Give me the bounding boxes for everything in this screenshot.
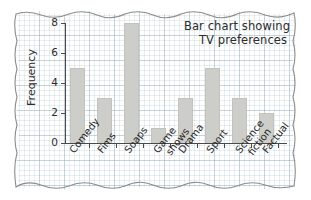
x-tick-4 [197, 143, 198, 148]
y-tick-4: 4 [61, 83, 66, 84]
y-tick-2: 2 [61, 113, 66, 114]
y-tick-label-4: 4 [51, 76, 58, 88]
y-tick-label-0: 0 [51, 136, 58, 148]
y-tick-8: 8 [61, 23, 66, 24]
y-axis-label: Frequency [25, 38, 38, 118]
chart-title-line-1: Bar chart showing [163, 20, 311, 34]
x-tick-5 [224, 143, 225, 148]
x-tick-1 [116, 143, 117, 148]
y-tick-label-8: 8 [51, 16, 58, 28]
bar-soaps [124, 23, 139, 143]
chart-title: Bar chart showing TV preferences [163, 20, 311, 47]
graph-paper-sheet: Bar chart showing TV preferences Frequen… [13, 9, 298, 191]
y-tick-0: 0 [61, 143, 66, 144]
x-tick-0 [89, 143, 90, 148]
y-tick-label-6: 6 [51, 46, 58, 58]
x-tick-2 [143, 143, 144, 148]
y-tick-label-2: 2 [51, 106, 58, 118]
chart-title-line-2: TV preferences [163, 34, 311, 48]
y-tick-6: 6 [61, 53, 66, 54]
